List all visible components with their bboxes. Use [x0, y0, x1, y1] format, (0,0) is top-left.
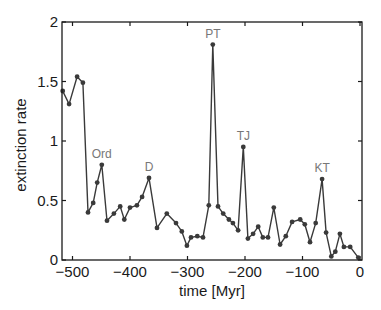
data-point [118, 204, 123, 209]
data-point [260, 235, 265, 240]
data-point [302, 222, 307, 227]
data-point [338, 231, 343, 236]
data-point [210, 42, 215, 47]
x-tick-label: −400 [113, 263, 147, 280]
y-tick-label: 2 [50, 13, 58, 30]
data-point [231, 221, 236, 226]
y-tick-label: 0 [50, 251, 58, 268]
data-point [320, 177, 325, 182]
data-point [185, 243, 190, 248]
data-point [246, 236, 251, 241]
data-point [271, 205, 276, 210]
data-point [189, 235, 194, 240]
data-point [251, 231, 256, 236]
x-tick-label: −200 [228, 263, 262, 280]
data-point [112, 211, 117, 216]
data-point [313, 221, 318, 226]
data-point [201, 235, 206, 240]
data-point [140, 195, 145, 200]
data-point [67, 102, 72, 107]
annotation-pt: PT [205, 27, 221, 41]
data-point [60, 89, 65, 94]
data-point [179, 229, 184, 234]
data-point [298, 217, 303, 222]
data-point [135, 203, 140, 208]
data-point [128, 205, 133, 210]
data-point [86, 210, 91, 215]
data-point [241, 145, 246, 150]
data-point [147, 176, 152, 181]
data-point [105, 218, 110, 223]
x-tick-label: 0 [356, 263, 364, 280]
data-point [290, 220, 295, 225]
data-point [329, 254, 334, 259]
data-point [122, 217, 127, 222]
data-point [308, 240, 313, 245]
data-point [227, 217, 232, 222]
data-point [216, 204, 221, 209]
y-axis-label: extinction rate [12, 98, 29, 191]
extinction-rate-chart: −500−400−300−200−100000.511.52 OrdDPTTJK… [0, 0, 381, 310]
y-tick-label: 1.5 [37, 73, 58, 90]
data-point [95, 180, 100, 185]
annotation-kt: KT [314, 161, 330, 175]
data-point [283, 234, 288, 239]
data-point [348, 245, 353, 250]
x-tick-label: −300 [171, 263, 205, 280]
data-point [75, 74, 80, 79]
data-point [278, 242, 283, 247]
data-point [81, 80, 86, 85]
data-point [256, 224, 261, 229]
tick-labels: −500−400−300−200−100000.511.52 [37, 13, 364, 280]
data-point [155, 226, 160, 231]
y-tick-label: 0.5 [37, 192, 58, 209]
x-tick-label: −500 [56, 263, 90, 280]
data-point [266, 235, 271, 240]
data-point [356, 255, 361, 260]
data-point [164, 211, 169, 216]
data-point [206, 203, 211, 208]
data-point [342, 245, 347, 250]
y-tick-label: 1 [50, 132, 58, 149]
data-point [91, 201, 96, 206]
x-axis-label: time [Myr] [179, 282, 245, 299]
data-point [236, 228, 241, 233]
data-point [333, 249, 338, 254]
annotation-ord: Ord [92, 147, 112, 161]
data-point [195, 234, 200, 239]
x-tick-label: −100 [286, 263, 320, 280]
data-point [324, 230, 329, 235]
annotation-d: D [145, 160, 154, 174]
annotation-tj: TJ [237, 129, 250, 143]
data-point [174, 221, 179, 226]
data-point [99, 162, 104, 167]
data-point [221, 211, 226, 216]
